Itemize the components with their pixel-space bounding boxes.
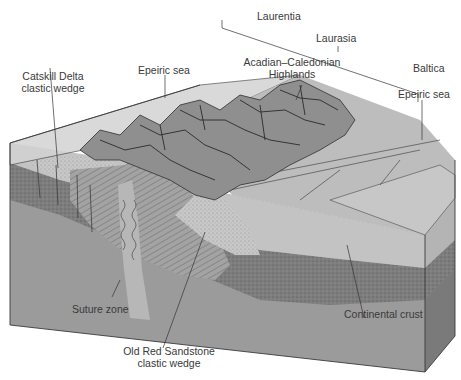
label-epeiric-sea-right: Epeiric sea [398,88,450,100]
label-catskill: Catskill Delta clastic wedge [18,70,88,94]
label-laurentia: Laurentia [257,10,301,22]
label-old-red-line1: Old Red Sandstone [114,345,224,357]
label-continental-crust: Continental crust [344,308,423,320]
diagram-svg [0,0,461,380]
label-old-red-line2: clastic wedge [114,357,224,369]
label-highlands-line1: Acadian–Caledonian [232,56,352,68]
label-highlands: Acadian–Caledonian Highlands [232,56,352,80]
label-highlands-line2: Highlands [232,68,352,80]
label-catskill-line1: Catskill Delta [18,70,88,82]
label-baltica: Baltica [413,62,445,74]
label-suture-zone: Suture zone [72,303,129,315]
label-epeiric-sea-left: Epeiric sea [138,64,190,76]
label-catskill-line2: clastic wedge [18,82,88,94]
block-diagram: Laurentia Laurasia Baltica Acadian–Caled… [0,0,461,380]
label-laurasia: Laurasia [316,32,356,44]
label-old-red-sandstone: Old Red Sandstone clastic wedge [114,345,224,369]
